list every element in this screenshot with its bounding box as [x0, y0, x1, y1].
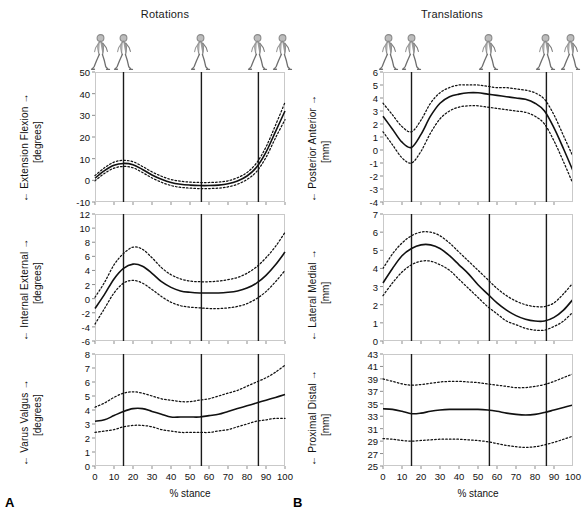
x-tick-label: 20	[416, 471, 427, 482]
y-tick-label: 0	[61, 461, 90, 472]
y-tick-label: 8	[61, 349, 90, 360]
plot-canvas-proximal-distal	[286, 0, 572, 524]
translations-column: -4-3-2-10123456← Posterior Anterior →[mm…	[286, 0, 572, 524]
y-tick-label: 7	[61, 363, 90, 374]
y-axis-unit-varus-valgus: [degrees]	[32, 394, 43, 436]
y-tick-label: 5	[61, 391, 90, 402]
x-tick-label: 30	[147, 471, 158, 482]
y-tick-label: 35	[349, 398, 378, 409]
y-tick-label: 29	[349, 436, 378, 447]
plot-canvas-varus-valgus	[0, 0, 286, 524]
x-tick-label: 20	[128, 471, 139, 482]
x-tick-label: 100	[565, 471, 581, 482]
x-tick-label: 70	[223, 471, 234, 482]
y-tick-label: 37	[349, 386, 378, 397]
y-axis-unit-proximal-distal: [mm]	[320, 414, 331, 436]
y-axis-label-proximal-distal: ← Proximal Distal →	[307, 370, 318, 466]
y-tick-label: 39	[349, 373, 378, 384]
plot-proximal-distal: 25272931333537394143← Proximal Distal →[…	[286, 0, 572, 524]
y-tick-label: 1	[61, 447, 90, 458]
x-tick-label: 80	[530, 471, 541, 482]
x-tick-label: 0	[380, 471, 385, 482]
x-axis-label: % stance	[457, 488, 498, 499]
x-tick-label: 10	[109, 471, 120, 482]
y-tick-label: 33	[349, 411, 378, 422]
x-tick-label: 80	[242, 471, 253, 482]
y-tick-label: 3	[61, 419, 90, 430]
x-tick-label: 10	[397, 471, 408, 482]
x-tick-label: 50	[185, 471, 196, 482]
x-tick-label: 30	[435, 471, 446, 482]
x-tick-label: 40	[454, 471, 465, 482]
x-tick-label: 60	[492, 471, 503, 482]
x-tick-label: 40	[166, 471, 177, 482]
y-tick-label: 4	[61, 405, 90, 416]
y-tick-label: 27	[349, 448, 378, 459]
x-tick-label: 90	[549, 471, 560, 482]
x-tick-label: 90	[261, 471, 272, 482]
rotations-column: -1001020304050← Extension Flexion →[degr…	[0, 0, 286, 524]
y-tick-label: 43	[349, 349, 378, 360]
plot-varus-valgus: 012345678← Varus Valgus →[degrees]010203…	[0, 0, 286, 524]
y-tick-label: 31	[349, 423, 378, 434]
y-tick-label: 25	[349, 461, 378, 472]
x-tick-label: 0	[92, 471, 97, 482]
y-tick-label: 6	[61, 377, 90, 388]
x-tick-label: 50	[473, 471, 484, 482]
y-tick-label: 41	[349, 361, 378, 372]
y-axis-label-varus-valgus: ← Varus Valgus →	[19, 379, 30, 466]
x-tick-label: 70	[511, 471, 522, 482]
x-tick-label: 60	[204, 471, 215, 482]
x-axis-label: % stance	[169, 488, 210, 499]
y-tick-label: 2	[61, 433, 90, 444]
